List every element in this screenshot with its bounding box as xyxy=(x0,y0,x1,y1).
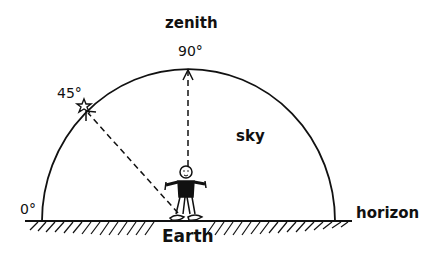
earth-label: Earth xyxy=(162,226,214,246)
angle-90-label: 90° xyxy=(178,43,203,59)
sky-label: sky xyxy=(236,127,265,145)
altitude-dashed-line xyxy=(88,113,178,213)
celestial-altitude-diagram: zenith 90° 45° 0° sky horizon Earth xyxy=(0,0,445,257)
observer-figure xyxy=(165,166,206,220)
horizon-label: horizon xyxy=(356,204,419,222)
angle-45-label: 45° xyxy=(57,85,82,101)
angle-0-label: 0° xyxy=(20,201,36,217)
zenith-label: zenith xyxy=(165,14,218,32)
